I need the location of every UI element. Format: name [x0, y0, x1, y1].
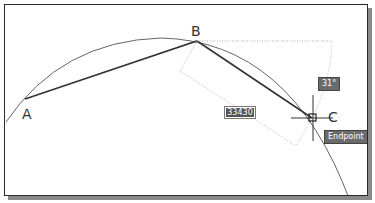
arc [6, 38, 350, 196]
point-label-c: C [328, 109, 338, 125]
point-label-b: B [191, 23, 201, 39]
drawing-canvas[interactable]: A B C 33430 31° Endpoint [4, 4, 368, 196]
dimension-value: 33430 [226, 108, 254, 117]
point-label-a: A [22, 106, 32, 122]
snap-tooltip: Endpoint [324, 130, 368, 144]
dimension-ext-2 [296, 118, 312, 146]
dimension-input[interactable]: 33430 [224, 106, 256, 119]
polyline-abc [25, 41, 312, 118]
drawing-geometry [5, 5, 368, 196]
angle-tooltip: 31° [318, 77, 340, 91]
